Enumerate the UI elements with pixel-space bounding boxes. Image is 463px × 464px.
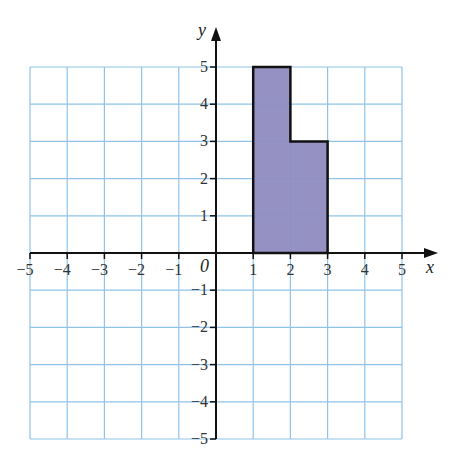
shaded-shape — [253, 67, 327, 253]
x-tick-label: −3 — [91, 261, 108, 278]
axes — [30, 27, 438, 439]
coordinate-grid: −5−4−3−2−112345−5−4−3−2−112345 x y 0 — [0, 0, 463, 464]
y-axis-label: y — [196, 20, 206, 40]
y-tick-label: 3 — [200, 132, 208, 149]
x-tick-label: −5 — [16, 261, 33, 278]
x-tick-label: 2 — [286, 261, 294, 278]
x-tick-label: 5 — [398, 261, 406, 278]
x-tick-label: −4 — [54, 261, 71, 278]
x-tick-label: 3 — [324, 261, 332, 278]
origin-label: 0 — [200, 256, 209, 276]
x-tick-label: 4 — [361, 261, 369, 278]
y-tick-label: −3 — [191, 356, 208, 373]
y-tick-label: 1 — [200, 207, 208, 224]
x-tick-label: −1 — [165, 261, 182, 278]
x-tick-label: −2 — [128, 261, 145, 278]
y-tick-label: −4 — [191, 393, 208, 410]
x-axis-label: x — [425, 257, 434, 277]
y-tick-label: −2 — [191, 318, 208, 335]
y-axis-arrow-icon — [211, 27, 221, 41]
y-tick-label: 4 — [200, 95, 208, 112]
y-tick-label: −5 — [191, 430, 208, 447]
x-tick-label: 1 — [249, 261, 257, 278]
y-tick-label: −1 — [191, 281, 208, 298]
y-tick-label: 5 — [200, 58, 208, 75]
y-tick-label: 2 — [200, 170, 208, 187]
